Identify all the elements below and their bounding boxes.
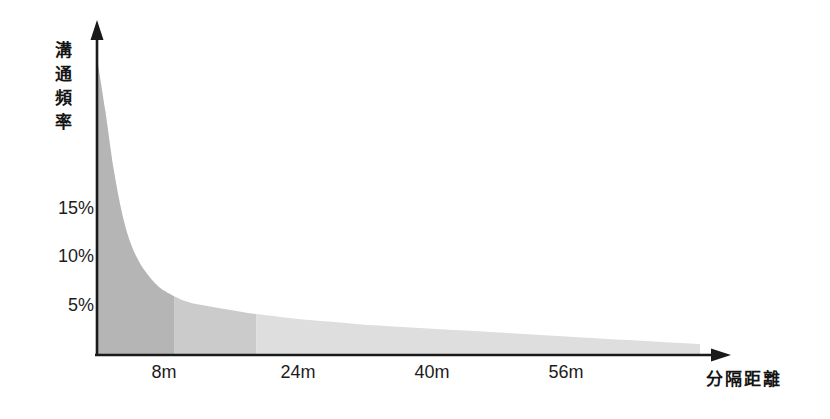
x-axis-title: 分隔距離 bbox=[706, 365, 782, 390]
x-axis-arrow-head bbox=[711, 349, 731, 362]
y-tick-label-10: 10% bbox=[32, 246, 94, 267]
y-tick-label-5: 5% bbox=[32, 295, 94, 316]
y-axis-title-char-4: 率 bbox=[50, 110, 76, 134]
y-axis-arrow-head bbox=[91, 20, 104, 40]
communication-frequency-chart: 溝通頻率 15% 10% 5% 8m 24m 40m 56m 分隔距離 bbox=[0, 0, 830, 419]
y-axis-title-char-2: 通 bbox=[50, 62, 76, 86]
chart-plot-area bbox=[0, 0, 830, 419]
band-far-zone bbox=[256, 13, 700, 359]
y-axis-title-char-3: 頻 bbox=[50, 86, 76, 110]
band-mid-zone bbox=[174, 13, 256, 359]
x-tick-label-8m: 8m bbox=[129, 362, 199, 383]
y-tick-label-15: 15% bbox=[32, 198, 94, 219]
band-near-zone bbox=[97, 13, 174, 359]
y-axis-title-char-1: 溝 bbox=[50, 38, 76, 62]
curve-shaded-bands bbox=[97, 13, 700, 359]
x-tick-label-24m: 24m bbox=[263, 362, 333, 383]
x-tick-label-56m: 56m bbox=[531, 362, 601, 383]
x-tick-label-40m: 40m bbox=[397, 362, 467, 383]
y-axis-title: 溝通頻率 bbox=[50, 38, 76, 134]
